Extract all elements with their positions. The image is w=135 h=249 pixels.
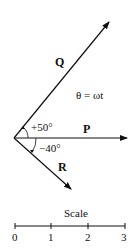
vector-q-label: Q xyxy=(55,56,64,68)
angle-label-q: +50° xyxy=(31,122,53,133)
scale-title: Scale xyxy=(64,208,88,219)
equation-label: θ = ωt xyxy=(76,90,103,101)
angle-arc-plus50-arrowhead xyxy=(21,126,25,129)
angle-arc-minus40 xyxy=(32,138,36,152)
angle-label-r: −40° xyxy=(39,143,61,154)
vector-r-label: R xyxy=(58,161,67,173)
vector-p-label: P xyxy=(83,123,90,135)
scale-tick-label-2: 2 xyxy=(85,232,91,243)
vector-q-arrow xyxy=(14,22,109,138)
scale-tick-label-0: 0 xyxy=(12,232,18,243)
scale-tick-label-1: 1 xyxy=(48,232,54,243)
scale-tick-label-3: 3 xyxy=(121,232,127,243)
